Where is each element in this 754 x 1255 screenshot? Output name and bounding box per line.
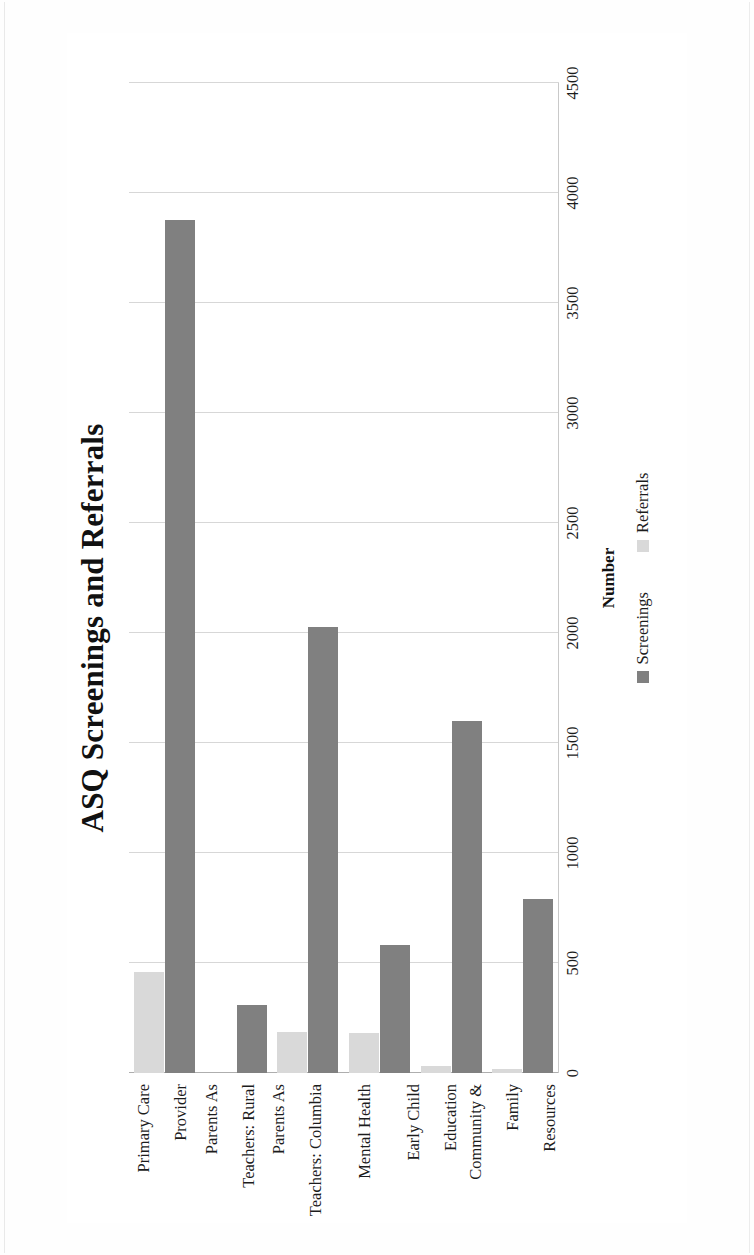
bars-layer: [129, 83, 559, 1073]
bar-row: [349, 83, 380, 1073]
value-tick-3500: 3500: [563, 286, 583, 319]
bar-screenings: [308, 627, 338, 1073]
category-label-line: Family: [504, 1084, 522, 1131]
bar-row: [206, 83, 237, 1073]
value-tick-1500: 1500: [563, 726, 583, 759]
legend-item[interactable]: Screenings: [633, 592, 653, 683]
bar-referrals: [349, 1033, 379, 1073]
bar-referrals: [134, 971, 164, 1072]
category-label-line: Teachers: Rural: [240, 1084, 258, 1188]
legend-swatch-referrals: [637, 540, 649, 552]
bar-row: [523, 83, 554, 1073]
value-tick-3000: 3000: [563, 396, 583, 429]
bar-screenings: [165, 220, 195, 1073]
category-label-line: Mental Health: [356, 1084, 374, 1179]
bar-row: [165, 83, 196, 1073]
bar-group: [487, 83, 559, 1073]
category-label-line: Early Child: [405, 1084, 423, 1161]
category-label-line: Parents As: [203, 1084, 221, 1154]
legend-label: Screenings: [633, 592, 653, 664]
bar-group: [129, 83, 201, 1073]
category-label: Community &FamilyResources: [467, 1077, 559, 1223]
category-label: Primary CareProvider: [129, 1077, 197, 1223]
bar-row: [421, 83, 452, 1073]
category-label-line: Resources: [541, 1084, 559, 1152]
chart-legend: ScreeningsReferrals: [633, 83, 653, 1073]
bar-row: [452, 83, 483, 1073]
category-label-line: Education: [442, 1084, 460, 1151]
bar-referrals: [421, 1066, 451, 1073]
bar-group: [416, 83, 488, 1073]
bar-referrals: [492, 1068, 522, 1072]
category-label-line: Provider: [172, 1084, 190, 1141]
category-label-line: Teachers: Columbia: [307, 1084, 325, 1216]
plot-area: [129, 83, 559, 1073]
bar-screenings: [523, 899, 553, 1073]
category-label: Early ChildEducation: [399, 1077, 467, 1223]
category-label-line: Primary Care: [135, 1084, 153, 1172]
value-axis-title: Number: [599, 83, 619, 1073]
chart-figure: ASQ Screenings and Referrals Primary Car…: [67, 33, 687, 1223]
category-label: Parents AsTeachers: Columbia: [264, 1077, 332, 1223]
legend-swatch-screenings: [637, 671, 649, 683]
chart-title: ASQ Screenings and Referrals: [75, 33, 111, 1223]
scanned-page: ASQ Screenings and Referrals Primary Car…: [0, 0, 754, 1255]
value-axis-labels: 050010001500200025003000350040004500: [563, 83, 597, 1073]
category-label: Parents AsTeachers: Rural: [197, 1077, 265, 1223]
bar-row: [277, 83, 308, 1073]
bar-group: [344, 83, 416, 1073]
bar-referrals: [277, 1032, 307, 1073]
value-axis-line: [558, 83, 559, 1073]
value-tick-1000: 1000: [563, 836, 583, 869]
value-tick-2500: 2500: [563, 506, 583, 539]
category-label: Mental Health: [332, 1077, 400, 1223]
value-tick-2000: 2000: [563, 616, 583, 649]
bar-row: [380, 83, 411, 1073]
category-label-line: Community &: [467, 1084, 485, 1180]
category-axis-labels: Primary CareProviderParents AsTeachers: …: [129, 1077, 559, 1223]
value-tick-0: 0: [563, 1068, 583, 1076]
legend-item[interactable]: Referrals: [633, 472, 653, 551]
value-tick-500: 500: [563, 950, 583, 975]
value-tick-4500: 4500: [563, 66, 583, 99]
bar-row: [237, 83, 268, 1073]
legend-label: Referrals: [633, 472, 653, 532]
bar-group: [201, 83, 273, 1073]
bar-screenings: [452, 721, 482, 1073]
value-tick-4000: 4000: [563, 176, 583, 209]
bar-screenings: [380, 945, 410, 1073]
bar-row: [134, 83, 165, 1073]
category-label-line: Parents As: [270, 1084, 288, 1154]
bar-row: [308, 83, 339, 1073]
bar-group: [272, 83, 344, 1073]
bar-screenings: [237, 1004, 267, 1072]
bar-row: [492, 83, 523, 1073]
